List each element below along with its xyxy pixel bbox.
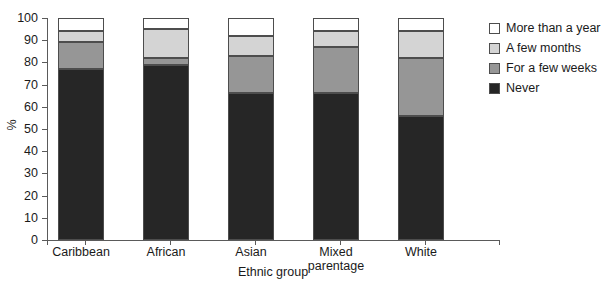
category-label-4: White xyxy=(361,246,481,260)
stacked-bar-chart: 0102030405060708090100 CaribbeanAfricanA… xyxy=(0,0,606,284)
y-axis-title: % xyxy=(5,119,19,130)
bar-segment-for-a-few-weeks[interactable] xyxy=(228,56,274,94)
y-tick-30: 30 xyxy=(42,173,47,174)
bar-segment-for-a-few-weeks[interactable] xyxy=(143,58,189,65)
y-tick-90: 90 xyxy=(42,40,47,41)
bar-segment-a-few-months[interactable] xyxy=(398,31,444,58)
y-tick-label-80: 80 xyxy=(24,55,38,69)
bar-mixed-parentage[interactable] xyxy=(313,18,359,240)
bar-segment-more-than-a-year[interactable] xyxy=(143,18,189,29)
legend-label: Never xyxy=(506,81,539,95)
bar-segment-more-than-a-year[interactable] xyxy=(313,18,359,31)
legend-item-for-a-few-weeks[interactable]: For a few weeks xyxy=(489,59,601,77)
bar-segment-a-few-months[interactable] xyxy=(313,31,359,47)
y-tick-100: 100 xyxy=(42,18,47,19)
x-axis-title: Ethnic group xyxy=(47,265,499,279)
y-tick-label-60: 60 xyxy=(24,100,38,114)
y-tick-20: 20 xyxy=(42,196,47,197)
bar-segment-never[interactable] xyxy=(143,65,189,240)
bar-segment-more-than-a-year[interactable] xyxy=(58,18,104,31)
bar-caribbean[interactable] xyxy=(58,18,104,240)
y-tick-10: 10 xyxy=(42,218,47,219)
bar-segment-for-a-few-weeks[interactable] xyxy=(398,58,444,116)
bar-segment-never[interactable] xyxy=(313,93,359,240)
bar-segment-never[interactable] xyxy=(228,93,274,240)
y-tick-60: 60 xyxy=(42,107,47,108)
y-tick-label-30: 30 xyxy=(24,166,38,180)
bar-segment-never[interactable] xyxy=(58,69,104,240)
bar-segment-more-than-a-year[interactable] xyxy=(228,18,274,36)
legend-label: A few months xyxy=(506,41,581,55)
y-tick-80: 80 xyxy=(42,62,47,63)
y-tick-label-0: 0 xyxy=(31,233,38,247)
y-tick-label-10: 10 xyxy=(24,211,38,225)
legend-item-never[interactable]: Never xyxy=(489,79,601,97)
legend-item-more-than-a-year[interactable]: More than a year xyxy=(489,19,601,37)
legend-swatch-icon xyxy=(489,43,500,54)
bar-asian[interactable] xyxy=(228,18,274,240)
chart-legend: More than a yearA few monthsFor a few we… xyxy=(489,19,601,99)
legend-swatch-icon xyxy=(489,83,500,94)
x-tick-6 xyxy=(499,240,500,245)
y-tick-label-100: 100 xyxy=(17,11,38,25)
legend-item-a-few-months[interactable]: A few months xyxy=(489,39,601,57)
y-tick-40: 40 xyxy=(42,151,47,152)
chart-title-cropped xyxy=(0,0,606,11)
category-label-line1: White xyxy=(361,246,481,260)
legend-swatch-icon xyxy=(489,63,500,74)
y-tick-70: 70 xyxy=(42,85,47,86)
y-tick-50: 50 xyxy=(42,129,47,130)
y-tick-label-70: 70 xyxy=(24,78,38,92)
bar-segment-a-few-months[interactable] xyxy=(228,36,274,56)
y-tick-label-90: 90 xyxy=(24,33,38,47)
bar-segment-never[interactable] xyxy=(398,116,444,240)
bar-segment-for-a-few-weeks[interactable] xyxy=(313,47,359,94)
legend-label: More than a year xyxy=(506,21,601,35)
y-tick-label-40: 40 xyxy=(24,144,38,158)
bar-african[interactable] xyxy=(143,18,189,240)
x-tick-0 xyxy=(47,240,48,245)
legend-swatch-icon xyxy=(489,23,500,34)
bar-white[interactable] xyxy=(398,18,444,240)
y-tick-label-20: 20 xyxy=(24,189,38,203)
y-axis-line xyxy=(47,18,48,240)
bar-segment-more-than-a-year[interactable] xyxy=(398,18,444,31)
bar-segment-for-a-few-weeks[interactable] xyxy=(58,42,104,69)
bar-segment-a-few-months[interactable] xyxy=(58,31,104,42)
plot-area: 0102030405060708090100 CaribbeanAfricanA… xyxy=(47,18,487,240)
bar-segment-a-few-months[interactable] xyxy=(143,29,189,58)
legend-label: For a few weeks xyxy=(506,61,597,75)
x-axis-line xyxy=(47,240,499,241)
y-tick-label-50: 50 xyxy=(24,122,38,136)
